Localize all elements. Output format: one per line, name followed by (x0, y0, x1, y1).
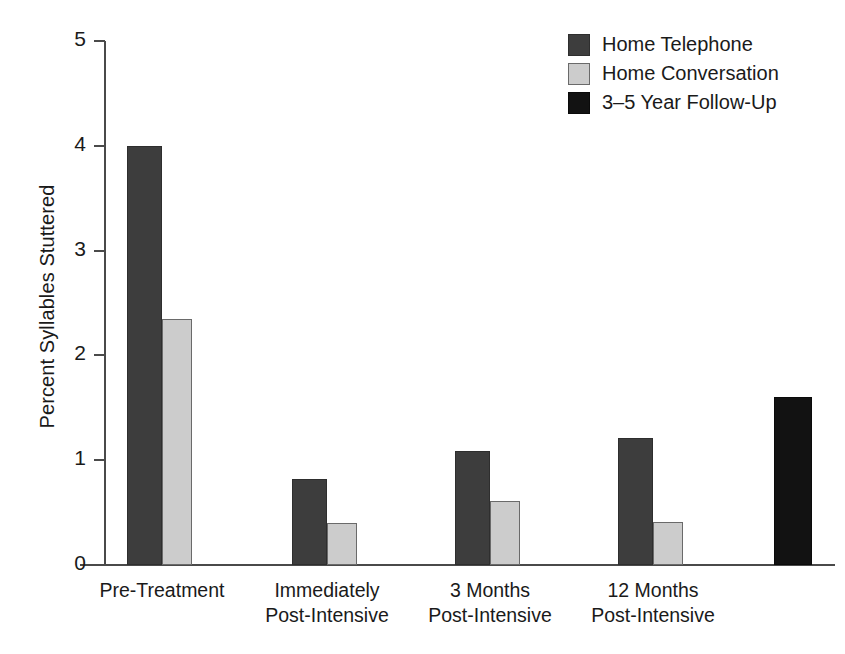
bar-chart-figure: Percent Syllables Stuttered 012345 Pre-T… (0, 0, 845, 654)
bar-home-conversation-3-months-post-intensive (490, 501, 520, 565)
legend-label: 3–5 Year Follow-Up (602, 91, 777, 114)
legend-swatch-icon-telephone (568, 34, 590, 56)
legend-item-home-conversation[interactable]: Home Conversation (568, 59, 779, 88)
x-axis-label-12-months-post-intensive: 12 MonthsPost-Intensive (543, 578, 763, 628)
chart-legend: Home TelephoneHome Conversation3–5 Year … (568, 30, 779, 117)
bar-home-telephone-12-months-post-intensive (618, 438, 653, 565)
bar-home-conversation-immediately-post-intensive (327, 523, 357, 565)
legend-swatch-icon-conversation (568, 63, 590, 85)
bar-home-telephone-immediately-post-intensive (292, 479, 327, 565)
x-axis-label-line: Post-Intensive (543, 603, 763, 628)
legend-item-3-5-year-follow-up[interactable]: 3–5 Year Follow-Up (568, 88, 779, 117)
legend-label: Home Telephone (602, 33, 753, 56)
bar-home-conversation-12-months-post-intensive (653, 522, 683, 565)
bar-home-conversation-pre-treatment (162, 319, 192, 565)
bar-home-telephone-pre-treatment (127, 146, 162, 565)
legend-item-home-telephone[interactable]: Home Telephone (568, 30, 779, 59)
bar-home-telephone-3-months-post-intensive (455, 451, 490, 565)
legend-label: Home Conversation (602, 62, 779, 85)
x-axis-label-line: 12 Months (543, 578, 763, 603)
legend-swatch-icon-followup (568, 92, 590, 114)
bar-3-5-year-follow-up (774, 397, 812, 565)
